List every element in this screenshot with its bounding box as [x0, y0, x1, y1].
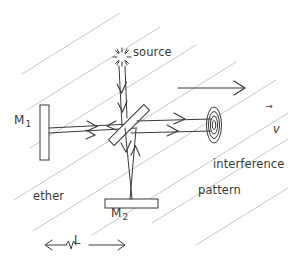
mirror-1-label: M1 — [14, 114, 31, 129]
velocity-vector-label: → v — [258, 78, 280, 148]
ether-line — [27, 27, 160, 110]
interference-label-line1: interference — [213, 157, 284, 171]
beam-arrowhead-down — [118, 101, 127, 112]
arm-beam-m1-ray-out — [49, 124, 131, 128]
incident-beam-ray — [125, 66, 127, 118]
arm-beam-m2-ray-up — [130, 129, 136, 199]
arm-length-label: L — [74, 234, 81, 247]
ether-line — [22, 13, 120, 74]
mirror-1 — [40, 105, 49, 160]
interference-ring — [212, 121, 216, 130]
output-beam-ray — [137, 119, 211, 121]
output-beam-ray — [131, 131, 211, 133]
diagram-canvas — [0, 0, 288, 263]
mirror-2-label: M2 — [111, 207, 128, 222]
beam-arrowhead-up — [131, 146, 140, 156]
source-label: source — [133, 46, 172, 59]
arm-beam-m2 — [121, 128, 140, 199]
velocity-vector-symbol: v — [273, 122, 280, 136]
michelson-interferometer-figure: source M1 M2 ether interference pattern … — [0, 0, 288, 263]
interference-label-line2: pattern — [198, 184, 284, 197]
mirror-2-label-text: M — [111, 206, 121, 220]
arm-length-dimension — [45, 240, 125, 250]
mirror-1-body — [40, 105, 49, 160]
source-starburst-icon — [113, 48, 131, 66]
mirror-1-label-text: M — [14, 113, 24, 127]
beam-arrowhead-right — [167, 125, 178, 136]
interference-pattern-icon — [207, 107, 222, 143]
mirror-1-subscript: 1 — [24, 119, 31, 129]
ether-label: ether — [33, 190, 64, 203]
beam-arrowhead-down — [117, 82, 127, 93]
interference-pattern-label: interference pattern — [198, 145, 284, 222]
velocity-vector-overarrow: → — [258, 104, 280, 110]
beam-arrowhead-right — [174, 113, 185, 124]
mirror-2-subscript: 2 — [121, 212, 128, 222]
incident-beam-ray — [119, 66, 122, 127]
velocity-vector-arrow — [178, 81, 245, 95]
beam-arrowhead-left — [107, 121, 116, 130]
incident-beam — [117, 66, 127, 127]
beam-arrowhead-right — [86, 130, 95, 139]
